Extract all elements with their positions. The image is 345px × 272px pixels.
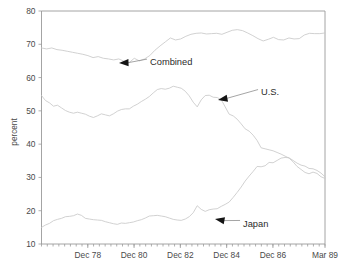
annotation-label-combined: Combined — [150, 57, 192, 67]
y-tick-label: 50 — [26, 106, 36, 116]
y-axis-title: percent — [10, 118, 19, 146]
annotation-label-u-s: U.S. — [261, 87, 279, 97]
y-tick-label: 80 — [26, 6, 36, 16]
x-tick-label: Dec 78 — [75, 250, 102, 260]
y-tick-label: 40 — [26, 139, 36, 149]
series-line-japan — [42, 157, 326, 227]
annotation-arrow-japan — [214, 215, 225, 224]
annotation-leader-u-s — [227, 90, 258, 99]
x-tick-label: Dec 82 — [167, 250, 194, 260]
y-tick-label: 60 — [26, 73, 36, 83]
x-tick-label: Dec 86 — [260, 250, 287, 260]
y-tick-label: 20 — [26, 206, 36, 216]
plot-frame — [42, 11, 326, 244]
x-tick-label: Mar 89 — [312, 250, 338, 260]
annotation-label-japan: Japan — [243, 219, 268, 229]
y-tick-label: 70 — [26, 39, 36, 49]
series-annotations: CombinedU.S.Japan — [119, 57, 279, 229]
annotation-arrow-combined — [119, 59, 129, 67]
y-tick-label: 30 — [26, 172, 36, 182]
chart-figure: 1020304050607080 Dec 78Dec 80Dec 82Dec 8… — [0, 0, 345, 272]
chart-canvas: 1020304050607080 Dec 78Dec 80Dec 82Dec 8… — [0, 0, 345, 272]
series-line-u-s — [42, 86, 326, 178]
y-tick-label: 10 — [26, 239, 36, 249]
x-tick-label: Dec 84 — [213, 250, 240, 260]
y-axis: 1020304050607080 — [26, 6, 41, 249]
x-tick-label: Dec 80 — [121, 250, 148, 260]
x-axis: Dec 78Dec 80Dec 82Dec 84Dec 86Mar 89 — [42, 244, 339, 260]
